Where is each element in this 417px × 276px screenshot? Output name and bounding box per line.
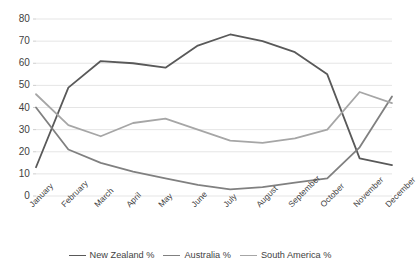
legend-label: Australia %	[184, 250, 230, 261]
legend-item[interactable]: New Zealand %	[69, 250, 155, 261]
legend-item[interactable]: Australia %	[163, 250, 230, 261]
legend-item[interactable]: South America %	[240, 250, 331, 261]
series-line-3	[36, 92, 392, 143]
chart-legend: New Zealand %Australia %South America %	[0, 250, 400, 261]
series-line-2	[36, 96, 392, 189]
legend-swatch-icon	[240, 255, 257, 256]
y-axis-tick-label: 40	[8, 103, 30, 113]
y-axis-tick-label: 20	[8, 147, 30, 157]
y-axis-tick-label: 80	[8, 14, 30, 24]
y-axis-tick-label: 50	[8, 80, 30, 90]
legend-swatch-icon	[163, 255, 180, 256]
y-axis-tick-label: 10	[8, 169, 30, 179]
y-axis-tick-label: 60	[8, 58, 30, 68]
legend-swatch-icon	[69, 255, 86, 256]
legend-label: New Zealand %	[90, 250, 155, 261]
series-line-1	[36, 34, 392, 167]
y-axis-tick-label: 0	[8, 191, 30, 201]
y-axis-tick-label: 70	[8, 36, 30, 46]
legend-label: South America %	[261, 250, 331, 261]
y-axis-tick-label: 30	[8, 125, 30, 135]
